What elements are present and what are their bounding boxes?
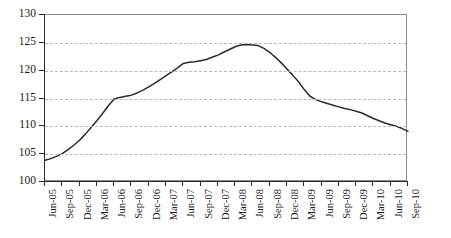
x-tick-label-Jun-06: Jun-06 xyxy=(117,189,128,218)
x-tick-label-Sep-08: Sep-08 xyxy=(273,189,284,219)
x-axis xyxy=(44,181,407,182)
x-tick-label-Sep-10: Sep-10 xyxy=(411,189,422,219)
x-tick-label-Sep-05: Sep-05 xyxy=(65,189,76,219)
x-tick-mark-Jun-09 xyxy=(321,181,322,186)
x-tick-mark-Jun-05 xyxy=(44,181,45,186)
x-tick-mark-Sep-10 xyxy=(407,181,408,186)
x-tick-label-Jun-05: Jun-05 xyxy=(48,189,59,218)
x-tick-mark-Mar-10 xyxy=(372,181,373,186)
x-tick-label-Sep-06: Sep-06 xyxy=(134,189,145,219)
x-tick-label-Mar-08: Mar-08 xyxy=(238,189,249,220)
x-tick-label-Mar-07: Mar-07 xyxy=(169,189,180,220)
y-tick-label-100: 100 xyxy=(0,175,36,187)
x-tick-mark-Sep-06 xyxy=(130,181,131,186)
x-tick-mark-Mar-06 xyxy=(96,181,97,186)
gridline-y-115 xyxy=(45,99,406,100)
y-tick-label-105: 105 xyxy=(0,147,36,159)
y-tick-mark-110 xyxy=(39,125,44,126)
series-path-index xyxy=(45,45,408,161)
x-tick-mark-Dec-08 xyxy=(286,181,287,186)
x-tick-mark-Dec-05 xyxy=(79,181,80,186)
x-tick-label-Mar-09: Mar-09 xyxy=(307,189,318,220)
gridline-y-120 xyxy=(45,71,406,72)
plot-area xyxy=(44,14,407,181)
x-tick-label-Dec-08: Dec-08 xyxy=(290,189,301,220)
x-tick-mark-Dec-09 xyxy=(355,181,356,186)
y-tick-mark-125 xyxy=(39,42,44,43)
x-tick-label-Dec-09: Dec-09 xyxy=(359,189,370,220)
x-tick-label-Sep-09: Sep-09 xyxy=(342,189,353,219)
x-tick-label-Sep-07: Sep-07 xyxy=(204,189,215,219)
x-tick-label-Dec-07: Dec-07 xyxy=(221,189,232,220)
x-tick-mark-Dec-07 xyxy=(217,181,218,186)
gridline-y-110 xyxy=(45,126,406,127)
x-tick-mark-Sep-09 xyxy=(338,181,339,186)
x-tick-mark-Sep-07 xyxy=(200,181,201,186)
x-tick-mark-Jun-07 xyxy=(182,181,183,186)
gridline-y-125 xyxy=(45,43,406,44)
x-tick-mark-Dec-06 xyxy=(148,181,149,186)
y-axis xyxy=(44,14,45,181)
y-tick-mark-120 xyxy=(39,70,44,71)
x-tick-label-Jun-09: Jun-09 xyxy=(325,189,336,218)
x-tick-label-Dec-05: Dec-05 xyxy=(83,189,94,220)
line-chart: 100105110115120125130 Jun-05Sep-05Dec-05… xyxy=(0,0,451,238)
x-tick-mark-Mar-09 xyxy=(303,181,304,186)
x-tick-mark-Mar-07 xyxy=(165,181,166,186)
x-tick-label-Mar-10: Mar-10 xyxy=(376,189,387,220)
y-tick-label-115: 115 xyxy=(0,92,36,104)
x-tick-label-Dec-06: Dec-06 xyxy=(152,189,163,220)
y-tick-mark-105 xyxy=(39,153,44,154)
x-tick-label-Jun-07: Jun-07 xyxy=(186,189,197,218)
y-tick-label-110: 110 xyxy=(0,119,36,131)
y-tick-label-120: 120 xyxy=(0,64,36,76)
x-tick-mark-Jun-10 xyxy=(390,181,391,186)
gridline-y-105 xyxy=(45,154,406,155)
y-tick-mark-115 xyxy=(39,98,44,99)
x-tick-label-Jun-10: Jun-10 xyxy=(394,189,405,218)
x-tick-label-Jun-08: Jun-08 xyxy=(255,189,266,218)
x-tick-label-Mar-06: Mar-06 xyxy=(100,189,111,220)
y-tick-label-130: 130 xyxy=(0,8,36,20)
y-tick-label-125: 125 xyxy=(0,36,36,48)
x-tick-mark-Jun-08 xyxy=(251,181,252,186)
x-tick-mark-Sep-05 xyxy=(61,181,62,186)
x-tick-mark-Jun-06 xyxy=(113,181,114,186)
x-tick-mark-Mar-08 xyxy=(234,181,235,186)
x-tick-mark-Sep-08 xyxy=(269,181,270,186)
y-tick-mark-130 xyxy=(39,14,44,15)
